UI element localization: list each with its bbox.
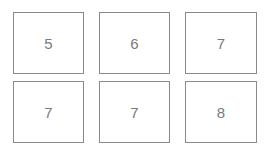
grid-cell-1[interactable]: 5 <box>13 12 84 74</box>
cell-value: 5 <box>44 35 52 52</box>
grid-cell-2[interactable]: 6 <box>99 12 170 74</box>
grid-cell-3[interactable]: 7 <box>185 12 257 74</box>
cell-value: 7 <box>130 104 138 121</box>
grid-cell-5[interactable]: 7 <box>99 81 170 143</box>
cell-value: 7 <box>217 35 225 52</box>
cell-value: 7 <box>44 104 52 121</box>
cell-value: 6 <box>130 35 138 52</box>
grid-cell-4[interactable]: 7 <box>13 81 84 143</box>
number-grid: 5 6 7 7 7 8 <box>13 12 257 143</box>
grid-cell-6[interactable]: 8 <box>185 81 257 143</box>
cell-value: 8 <box>217 104 225 121</box>
